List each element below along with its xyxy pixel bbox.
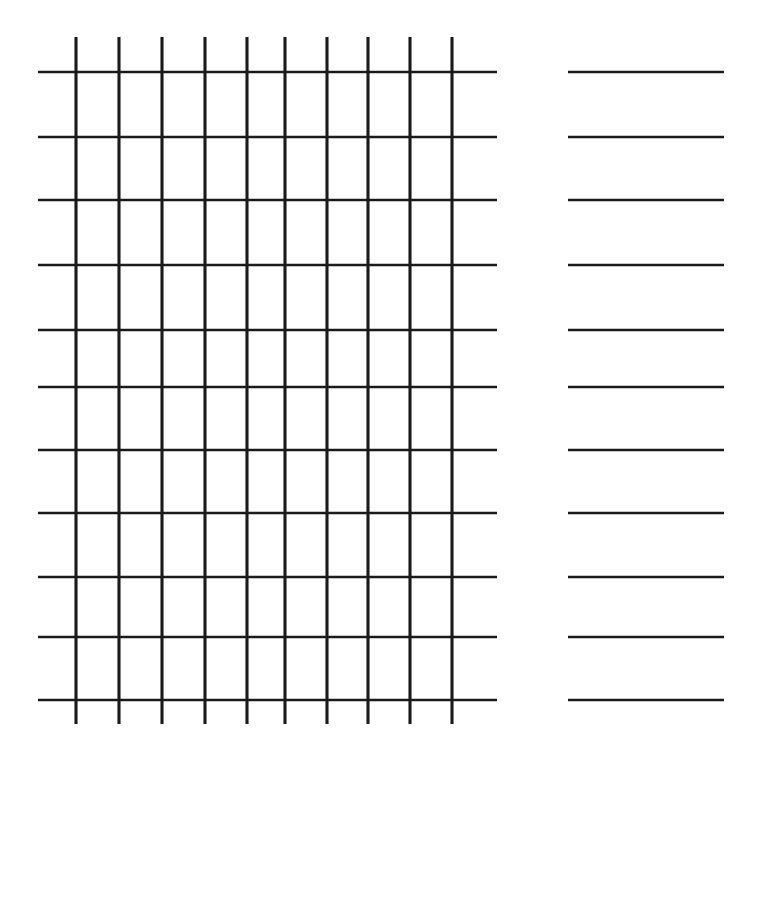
input-column-lines (76, 37, 452, 724)
pla-schematic (0, 0, 761, 908)
product-term-row-lines (38, 72, 724, 700)
pla-diagram-canvas (0, 0, 761, 908)
